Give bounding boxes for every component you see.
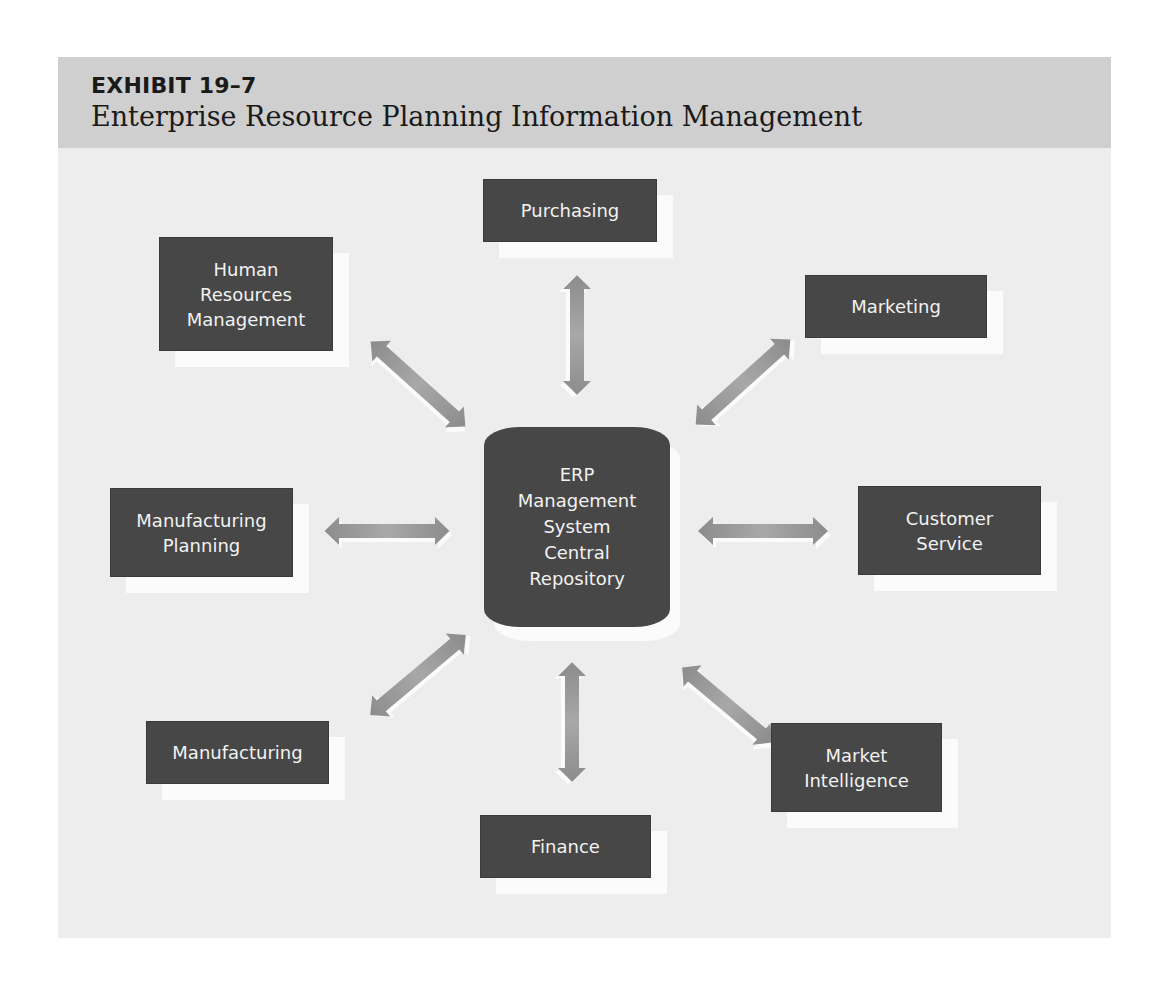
- node-label: Manufacturing Planning: [110, 488, 293, 577]
- arrow-marketing: [686, 327, 804, 438]
- node-human-resources-management: Human Resources Management: [159, 237, 333, 351]
- node-purchasing: Purchasing: [483, 179, 657, 242]
- arrow-finance: [554, 662, 586, 784]
- node-label: Purchasing: [483, 179, 657, 242]
- arrow-human-resources: [359, 331, 477, 442]
- node-label: Marketing: [805, 275, 987, 338]
- erp-central-repository: ERP Management System Central Repository: [484, 427, 670, 627]
- node-marketing: Marketing: [805, 275, 987, 338]
- node-label: Customer Service: [858, 486, 1041, 575]
- arrow-purchasing: [559, 275, 591, 397]
- arrow-market-intelligence: [671, 657, 783, 758]
- arrow-customer-service: [698, 517, 831, 549]
- repository-label: ERP Management System Central Repository: [484, 427, 670, 627]
- node-finance: Finance: [480, 815, 651, 878]
- node-customer-service: Customer Service: [858, 486, 1041, 575]
- node-market-intelligence: Market Intelligence: [771, 723, 942, 812]
- arrow-manufacturing: [361, 622, 479, 729]
- node-label: Human Resources Management: [159, 237, 333, 351]
- node-label: Market Intelligence: [771, 723, 942, 812]
- node-manufacturing: Manufacturing: [146, 721, 329, 784]
- node-label: Manufacturing: [146, 721, 329, 784]
- node-label: Finance: [480, 815, 651, 878]
- node-manufacturing-planning: Manufacturing Planning: [110, 488, 293, 577]
- erp-diagram: ERP Management System Central Repository…: [0, 0, 1161, 989]
- arrow-manufacturing-planning: [325, 517, 453, 549]
